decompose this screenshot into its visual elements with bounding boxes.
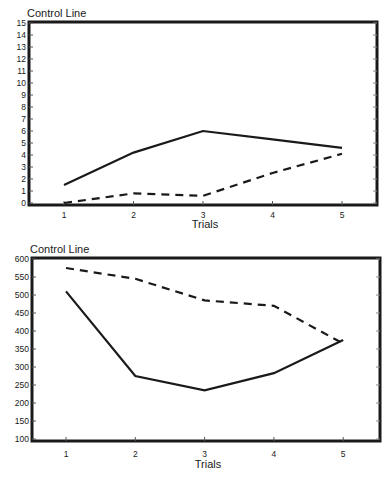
x-tick-label: 5: [340, 210, 345, 220]
y-tick-label: 500: [15, 290, 29, 300]
y-tick-label: 2: [21, 174, 26, 184]
y-tick-label: 8: [21, 102, 26, 112]
x-tick-label: 1: [64, 449, 69, 459]
y-tick-label: 350: [15, 344, 29, 354]
y-tick-label: 450: [15, 308, 29, 318]
chart-top-svg: Control Line012345678910111213141512345T…: [0, 0, 389, 240]
x-tick-label: 2: [131, 210, 136, 220]
y-tick-label: 550: [15, 272, 29, 282]
y-tick-label: 4: [21, 150, 26, 160]
y-tick-label: 100: [15, 434, 29, 444]
y-tick-label: 10: [17, 78, 27, 88]
chart-title: Control Line: [27, 7, 86, 19]
chart-bottom-svg: Control Line1001502002503003504004505005…: [0, 240, 389, 483]
series-line-solid: [66, 291, 343, 390]
series-line-dashed: [64, 154, 342, 203]
x-tick-label: 4: [270, 210, 275, 220]
y-tick-label: 300: [15, 362, 29, 372]
chart-top: Control Line012345678910111213141512345T…: [0, 0, 389, 240]
y-tick-label: 9: [21, 90, 26, 100]
y-tick-label: 14: [17, 30, 27, 40]
y-tick-label: 250: [15, 380, 29, 390]
y-tick-label: 15: [17, 18, 27, 28]
y-tick-label: 12: [17, 54, 27, 64]
y-tick-label: 600: [15, 254, 29, 264]
plot-frame: [32, 258, 380, 441]
y-tick-label: 400: [15, 326, 29, 336]
y-tick-label: 6: [21, 126, 26, 136]
x-tick-label: 1: [62, 210, 67, 220]
y-tick-label: 0: [21, 198, 26, 208]
x-axis-label: Trials: [192, 218, 219, 230]
chart-title: Control Line: [30, 243, 89, 255]
y-tick-label: 5: [21, 138, 26, 148]
x-tick-label: 5: [341, 449, 346, 459]
x-tick-label: 4: [272, 449, 277, 459]
x-axis-label: Trials: [195, 458, 222, 470]
y-tick-label: 13: [17, 42, 27, 52]
series-line-dashed: [66, 268, 343, 344]
y-tick-label: 150: [15, 416, 29, 426]
y-tick-label: 7: [21, 114, 26, 124]
x-tick-label: 2: [133, 449, 138, 459]
y-tick-label: 1: [21, 186, 26, 196]
chart-bottom: Control Line1001502002503003504004505005…: [0, 240, 389, 483]
y-tick-label: 200: [15, 398, 29, 408]
y-tick-label: 3: [21, 162, 26, 172]
series-line-solid: [64, 131, 342, 185]
y-tick-label: 11: [17, 66, 26, 76]
